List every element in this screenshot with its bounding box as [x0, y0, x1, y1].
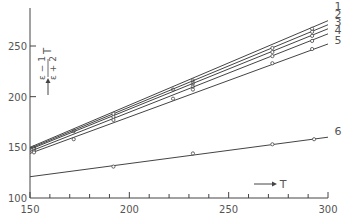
y-label-suffix: T [42, 47, 53, 55]
series [30, 21, 328, 177]
x-axis-label: T [279, 178, 287, 191]
series-line-5 [30, 44, 328, 153]
series-line-4 [30, 34, 328, 152]
y-label-numerator: ε − 1 [37, 56, 47, 80]
y-tick-label: 200 [8, 92, 27, 103]
data-point [112, 165, 115, 168]
data-point [72, 138, 75, 141]
labels: 123456Tε − 1ε + 2T [37, 0, 342, 191]
series-line-1 [30, 21, 328, 148]
y-tick-label: 250 [8, 41, 27, 52]
data-point [311, 30, 314, 33]
data-point [271, 50, 274, 53]
series-line-2 [30, 25, 328, 149]
series-line-6 [30, 137, 328, 177]
data-point [171, 97, 174, 100]
axes [30, 8, 328, 198]
y-tick-label: 150 [8, 142, 27, 153]
x-tick-label: 250 [219, 204, 238, 215]
x-tick-label: 300 [318, 204, 337, 215]
y-tick-label: 100 [8, 193, 27, 204]
data-point [112, 118, 115, 121]
data-point [312, 138, 315, 141]
data-point [32, 151, 35, 154]
x-axis-arrowhead-icon [272, 182, 277, 187]
series-label-6: 6 [335, 125, 342, 138]
data-point [271, 46, 274, 49]
data-point [271, 55, 274, 58]
y-label-denominator: ε + 2 [48, 56, 58, 80]
data-point [311, 34, 314, 37]
data-point [271, 143, 274, 146]
data-point [271, 62, 274, 65]
data-point [311, 47, 314, 50]
series-label-5: 5 [335, 34, 342, 47]
y-axis-label: ε − 1ε + 2T [37, 47, 58, 95]
chart: 150200250300100150200250 123456Tε − 1ε +… [0, 0, 351, 220]
x-tick-label: 150 [20, 204, 39, 215]
data-point [191, 152, 194, 155]
x-tick-label: 200 [120, 204, 139, 215]
series-line-3 [30, 29, 328, 150]
data-point [191, 88, 194, 91]
data-point [311, 39, 314, 42]
